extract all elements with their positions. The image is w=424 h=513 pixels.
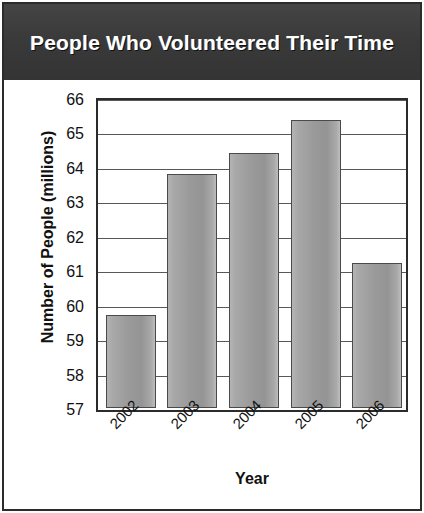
y-tick-label: 64 <box>66 160 84 178</box>
y-tick-label: 62 <box>66 229 84 247</box>
x-axis-tick-labels: 20022003200420052006 <box>96 416 408 468</box>
chart-title-banner: People Who Volunteered Their Time <box>4 4 420 80</box>
bar <box>291 120 341 408</box>
chart-area: Number of People (millions) 666564636261… <box>4 80 420 509</box>
y-tick-label: 59 <box>66 332 84 350</box>
y-tick-label: 63 <box>66 194 84 212</box>
gridline <box>98 100 406 101</box>
bar-series <box>100 102 404 408</box>
y-tick-label: 60 <box>66 298 84 316</box>
y-tick-label: 65 <box>66 125 84 143</box>
y-tick-label: 61 <box>66 263 84 281</box>
chart-title: People Who Volunteered Their Time <box>16 30 408 55</box>
bar <box>167 174 217 408</box>
bar <box>229 153 279 408</box>
bar-chart-figure: People Who Volunteered Their Time Number… <box>0 0 424 513</box>
bar <box>106 315 156 408</box>
x-axis-title: Year <box>96 470 408 488</box>
y-tick-label: 57 <box>66 401 84 419</box>
y-axis-tick-labels: 66656463626160595857 <box>4 98 92 412</box>
bar <box>352 263 402 408</box>
plot-area <box>96 98 408 412</box>
y-tick-label: 58 <box>66 367 84 385</box>
y-tick-label: 66 <box>66 91 84 109</box>
